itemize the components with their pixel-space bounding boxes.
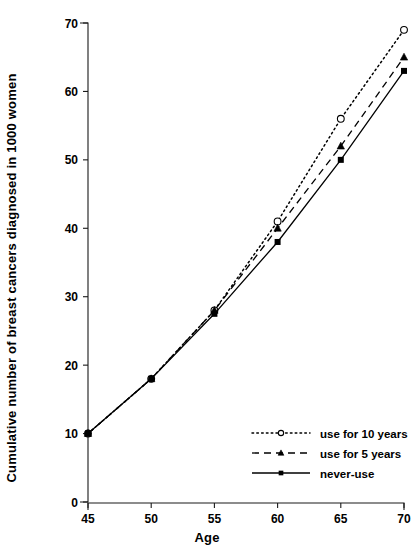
y-tick-label: 20 [65, 359, 79, 373]
series-2 [85, 68, 407, 437]
y-tick-label: 10 [65, 427, 79, 441]
x-tick-label: 60 [271, 512, 285, 526]
chart-legend: use for 10 yearsuse for 5 yearsnever-use [252, 428, 408, 480]
series-1 [84, 53, 407, 436]
data-point-marker [401, 26, 408, 33]
x-axis-ticks: 455055606570 [81, 503, 411, 526]
y-tick-label: 0 [71, 496, 78, 510]
data-point-marker [211, 311, 217, 317]
data-point-marker [278, 430, 283, 435]
x-axis-title: Age [0, 528, 414, 546]
series-line [88, 57, 404, 433]
data-point-marker [85, 431, 91, 437]
legend-item-label: never-use [320, 468, 374, 480]
x-tick-label: 70 [397, 512, 411, 526]
y-tick-label: 60 [65, 85, 79, 99]
x-tick-label: 50 [145, 512, 159, 526]
y-tick-label: 40 [65, 222, 79, 236]
series-0 [85, 26, 408, 437]
series-line [88, 30, 404, 434]
line-chart-canvas: 010203040506070 455055606570 use for 10 … [0, 0, 414, 556]
x-axis-line [88, 503, 404, 510]
legend-item-2[interactable]: never-use [252, 468, 374, 480]
x-axis: 455055606570 [81, 503, 411, 526]
data-point-marker [279, 471, 284, 476]
y-tick-label: 50 [65, 153, 79, 167]
data-point-marker [401, 68, 407, 74]
data-point-marker [148, 376, 154, 382]
y-tick-label: 70 [65, 17, 79, 31]
legend-item-label: use for 5 years [320, 448, 401, 460]
series-layer [84, 26, 407, 437]
chart-figure: 010203040506070 455055606570 use for 10 … [0, 0, 414, 556]
data-point-marker [338, 157, 344, 163]
series-line [88, 71, 404, 434]
y-tick-label: 30 [65, 290, 79, 304]
x-axis-title-label: Age [194, 530, 219, 545]
x-tick-label: 55 [208, 512, 222, 526]
legend-item-1[interactable]: use for 5 years [252, 448, 401, 460]
x-tick-label: 45 [81, 512, 95, 526]
data-point-marker [337, 115, 344, 122]
data-point-marker [275, 239, 281, 245]
data-point-marker [274, 224, 281, 231]
legend-item-label: use for 10 years [320, 428, 408, 440]
data-point-marker [400, 53, 407, 60]
legend-item-0[interactable]: use for 10 years [252, 428, 408, 440]
x-tick-label: 65 [334, 512, 348, 526]
